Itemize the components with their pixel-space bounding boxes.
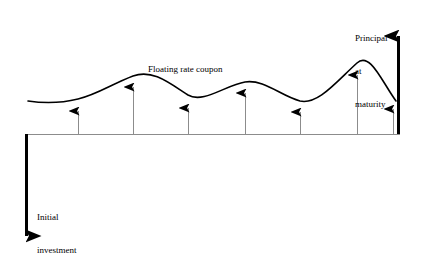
principal-at-maturity-line-3: maturity <box>355 99 388 110</box>
initial-investment-line-2: investment <box>37 245 77 256</box>
principal-at-maturity-line-1: Principal <box>355 33 388 44</box>
initial-investment-label: Initial investment <box>37 190 77 263</box>
floating-rate-coupon-label: Floating rate coupon <box>148 42 222 97</box>
cashflow-diagram: Floating rate coupon Principal at maturi… <box>0 0 422 263</box>
principal-at-maturity-line-2: at <box>355 66 388 77</box>
initial-investment-line-1: Initial <box>37 212 77 223</box>
floating-rate-coupon-text: Floating rate coupon <box>148 64 222 75</box>
principal-at-maturity-label: Principal at maturity <box>355 11 388 132</box>
